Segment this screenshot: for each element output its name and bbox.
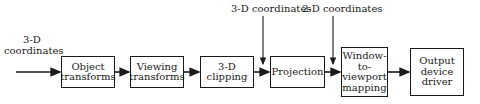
input-label-line: 3-D	[4, 34, 60, 45]
stage-label-line: viewport	[342, 72, 387, 83]
stage-3d-clipping: 3-Dclipping	[200, 56, 254, 88]
stage-label-line: Window-	[342, 51, 387, 62]
connector-layer	[0, 0, 480, 104]
stage-label-line: mapping	[342, 83, 387, 94]
stage-output-device-driver: Outputdevicedriver	[410, 48, 464, 96]
input-coordinates-label: 3-D coordinates	[4, 34, 60, 56]
stage-label-line: clipping	[207, 72, 248, 83]
stage-object-transforms: Objecttransforms	[61, 56, 115, 88]
stage-label-line: transforms	[129, 72, 184, 83]
top-label-2d-coordinates: 2-D coordinates	[302, 3, 368, 14]
input-label-line: coordinates	[4, 45, 60, 56]
stage-label-line: driver	[419, 77, 455, 88]
top-label-3d-coordinates: 3-D coordinates	[231, 3, 297, 14]
stage-label-line: transforms	[60, 72, 115, 83]
stage-window-to-viewport-mapping: Window-to-viewportmapping	[341, 47, 388, 97]
stage-projection: Projection	[270, 56, 325, 88]
stage-label-line: Projection	[272, 67, 324, 78]
stage-viewing-transforms: Viewingtransforms	[130, 56, 184, 88]
